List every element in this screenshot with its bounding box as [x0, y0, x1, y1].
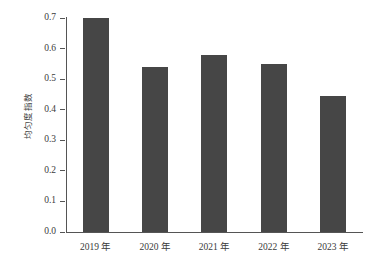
bar-slot: [244, 18, 303, 232]
y-axis-tick-label: 0.6: [0, 42, 56, 55]
x-axis-tick-label: 2021 年: [185, 240, 244, 254]
y-axis-tick-mark: [60, 201, 65, 202]
bar-slot: [304, 18, 363, 232]
bars-layer: [66, 18, 363, 232]
bar[interactable]: [142, 67, 168, 232]
y-axis-tick-label: 0.3: [0, 133, 56, 146]
x-axis-tick-label: 2022 年: [244, 240, 303, 254]
bar[interactable]: [83, 18, 109, 232]
y-axis-tick-label: 0.1: [0, 194, 56, 207]
x-axis-tick-label: 2020 年: [125, 240, 184, 254]
y-axis-tick-mark: [60, 170, 65, 171]
bar[interactable]: [201, 55, 227, 232]
y-axis-tick-label: 0.5: [0, 72, 56, 85]
y-axis-tick-label: 0.0: [0, 225, 56, 238]
y-axis-tick-mark: [60, 18, 65, 19]
x-axis-line: [66, 232, 363, 233]
bar-slot: [66, 18, 125, 232]
y-axis-tick-mark: [60, 48, 65, 49]
bar-slot: [125, 18, 184, 232]
y-axis-tick-label: 0.7: [0, 11, 56, 24]
y-axis-tick-mark: [60, 232, 65, 233]
bar-slot: [185, 18, 244, 232]
bar-chart: 均匀度指数 0.00.10.20.30.40.50.60.7 2019 年202…: [0, 0, 375, 275]
y-axis-tick-mark: [60, 140, 65, 141]
y-axis-title-label: 均匀度指数: [21, 93, 33, 140]
bar[interactable]: [261, 64, 287, 232]
x-axis-labels: 2019 年2020 年2021 年2022 年2023 年: [66, 240, 363, 260]
y-axis-tick-label: 0.4: [0, 103, 56, 116]
x-axis-tick-label: 2019 年: [66, 240, 125, 254]
y-axis-tick-mark: [60, 79, 65, 80]
x-axis-tick-label: 2023 年: [304, 240, 363, 254]
y-axis-tick-label: 0.2: [0, 164, 56, 177]
bar[interactable]: [320, 96, 346, 232]
y-axis-tick-mark: [60, 109, 65, 110]
